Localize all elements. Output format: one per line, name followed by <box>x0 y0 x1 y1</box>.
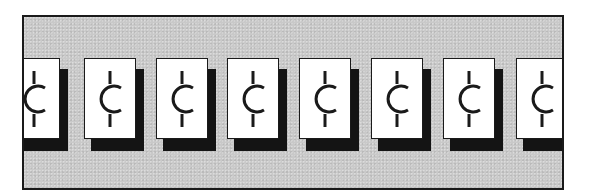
cent-icon <box>525 70 559 128</box>
cent-icon <box>22 70 51 128</box>
cent-card: ¢ <box>84 58 137 140</box>
cent-card: ¢ <box>156 58 209 140</box>
card-face: ¢ <box>84 58 136 139</box>
cent-icon <box>380 70 414 128</box>
cent-icon <box>93 70 127 128</box>
cent-card: ¢ <box>227 58 280 140</box>
card-face: ¢ <box>22 58 60 139</box>
card-face: ¢ <box>443 58 495 139</box>
card-face: ¢ <box>516 58 564 139</box>
cent-card: ¢ <box>443 58 496 140</box>
card-face: ¢ <box>156 58 208 139</box>
cent-card: ¢ <box>371 58 424 140</box>
cent-card: ¢ <box>22 58 61 140</box>
card-face: ¢ <box>227 58 279 139</box>
cent-card: ¢ <box>299 58 352 140</box>
cent-card: ¢ <box>516 58 564 140</box>
cent-icon <box>236 70 270 128</box>
card-face: ¢ <box>299 58 351 139</box>
cent-icon <box>452 70 486 128</box>
cent-card-strip-frame: ¢ ¢ ¢ <box>22 15 564 190</box>
card-face: ¢ <box>371 58 423 139</box>
cent-icon <box>308 70 342 128</box>
cent-icon <box>165 70 199 128</box>
card-row: ¢ ¢ ¢ <box>24 17 562 188</box>
